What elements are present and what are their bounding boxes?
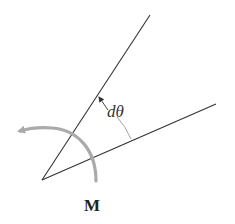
moment-label: M [84, 197, 100, 214]
upper-line [42, 15, 150, 180]
angle-label: dθ [107, 103, 124, 120]
lower-line [42, 104, 216, 180]
moment-diagram: dθ M [0, 0, 235, 224]
